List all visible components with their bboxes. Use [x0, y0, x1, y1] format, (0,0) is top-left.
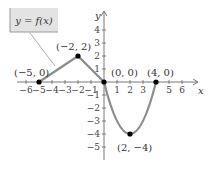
function-label: y = f(x)	[14, 15, 53, 26]
point-4-0	[153, 79, 158, 84]
y-axis-label: y	[94, 10, 101, 21]
svg-text:−5: −5	[32, 85, 46, 95]
svg-text:−3: −3	[58, 85, 72, 95]
svg-text:−5: −5	[87, 142, 101, 152]
svg-text:−3: −3	[87, 116, 101, 126]
svg-text:3: 3	[94, 38, 100, 48]
svg-text:2: 2	[94, 51, 100, 61]
svg-text:−4: −4	[45, 85, 59, 95]
svg-text:3: 3	[140, 85, 146, 95]
svg-text:6: 6	[179, 85, 185, 95]
svg-text:(4, 0): (4, 0)	[147, 67, 174, 78]
x-tick-labels: −6 −5 −4 −3 −2 −1 1 2 3 5 6	[19, 85, 185, 95]
point-neg5-0	[36, 79, 41, 84]
point-neg2-2	[75, 53, 80, 58]
svg-text:(−5, 0): (−5, 0)	[14, 67, 49, 78]
x-axis-label: x	[198, 85, 204, 96]
svg-text:5: 5	[166, 85, 172, 95]
svg-text:−6: −6	[19, 85, 33, 95]
point-0-0	[101, 79, 106, 84]
svg-text:−2: −2	[71, 85, 84, 95]
svg-text:(2, −4): (2, −4)	[117, 142, 152, 153]
point-2-neg4	[127, 131, 132, 136]
svg-text:(0, 0): (0, 0)	[111, 67, 138, 78]
svg-text:−4: −4	[87, 129, 101, 139]
function-label-box: y = f(x)	[10, 8, 58, 66]
svg-text:1: 1	[114, 85, 120, 95]
annotation-pointer	[30, 33, 55, 66]
svg-text:(−2, 2): (−2, 2)	[56, 41, 91, 52]
function-graph: y = f(x) −6 −5 −4 −3 −2 −1 1 2 3 5 6 x	[0, 0, 211, 169]
svg-text:2: 2	[127, 85, 133, 95]
svg-text:−2: −2	[87, 103, 100, 113]
svg-text:−1: −1	[87, 90, 100, 100]
svg-text:4: 4	[94, 25, 100, 35]
